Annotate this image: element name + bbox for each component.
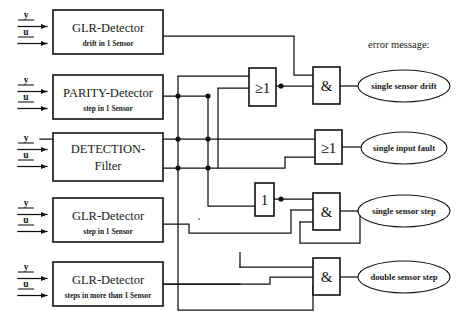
logic-gate-not-1[interactable]: 1 <box>255 183 274 216</box>
block-subtitle: drift in 1 Sensor <box>82 39 134 48</box>
block-title: GLR-Detector <box>72 21 145 35</box>
function-block-glr-multistep[interactable]: GLR-Detectorsteps in more than 1 Sensor <box>53 262 163 306</box>
signal-labels-layer: yuyuyuyuyu <box>23 10 29 289</box>
logic-gate-or-1[interactable]: ≥1 <box>249 68 276 106</box>
output-label: single sensor drift <box>371 81 436 91</box>
gate-label: & <box>321 78 333 94</box>
logic-gate-and-3[interactable]: & <box>313 258 340 295</box>
function-blocks-layer: GLR-Detectordrift in 1 SensorPARITY-Dete… <box>53 10 163 306</box>
gate-label: ≥1 <box>321 140 337 156</box>
block-title: PARITY-Detector <box>63 86 154 100</box>
signal-label-y-glr-step: y <box>24 198 29 208</box>
wire-filter-out-to-or2 <box>163 157 315 171</box>
gate-label: & <box>321 269 333 285</box>
signal-label-u-glr-step: u <box>23 215 29 225</box>
gate-label: 1 <box>261 192 269 208</box>
signal-label-y-glr-drift: y <box>24 10 29 20</box>
output-label: single input fault <box>373 143 435 153</box>
wire-and3-inputs <box>163 252 313 284</box>
function-block-detection-filter[interactable]: DETECTION-Filter <box>53 133 163 181</box>
signal-label-y-parity: y <box>24 75 29 85</box>
signal-label-y-detection-filter: y <box>24 133 29 143</box>
wire-glrdrift-to-and1 <box>163 36 313 75</box>
signal-label-u-glr-multistep: u <box>23 279 29 289</box>
logic-gates-layer: ≥1&≥11&& <box>249 67 342 295</box>
signal-label-u-glr-drift: u <box>23 27 29 37</box>
block-subtitle: steps in more than 1 Sensor <box>65 291 152 300</box>
input-arrows-glr-step <box>18 208 47 232</box>
error-message-outputs-layer: single sensor driftsingle input faultsin… <box>358 70 450 293</box>
block-title: GLR-Detector <box>72 273 145 287</box>
input-arrows-glr-multistep <box>18 272 47 296</box>
diagram-canvas: GLR-Detectordrift in 1 SensorPARITY-Dete… <box>0 0 473 331</box>
output-out-sensor-step[interactable]: single sensor step <box>358 195 450 227</box>
output-out-input-fault[interactable]: single input fault <box>361 132 447 164</box>
output-out-drift[interactable]: single sensor drift <box>358 70 450 102</box>
input-arrows-detection-filter <box>18 143 47 167</box>
block-subtitle: Filter <box>94 159 122 173</box>
output-label: double sensor step <box>370 272 437 282</box>
wire-not1-to-and2 <box>274 196 313 201</box>
signal-label-u-detection-filter: u <box>23 150 29 160</box>
wire-parity-down-bus <box>205 93 255 206</box>
wire-parity-bus <box>163 76 313 310</box>
output-label: single sensor step <box>372 206 436 216</box>
block-title: GLR-Detector <box>72 209 145 223</box>
fault-detection-diagram: GLR-Detectordrift in 1 SensorPARITY-Dete… <box>0 0 473 331</box>
output-out-double-step[interactable]: double sensor step <box>358 261 450 293</box>
function-block-parity[interactable]: PARITY-Detectorstep in 1 Sensor <box>53 75 163 119</box>
error-message-heading: error message: <box>368 39 430 50</box>
wire-or1-to-and1 <box>276 83 313 88</box>
block-subtitle: step in 1 Sensor <box>83 104 133 113</box>
signal-label-y-glr-multistep: y <box>24 262 29 272</box>
logic-gate-or-2[interactable]: ≥1 <box>315 130 342 164</box>
gate-label: & <box>321 204 333 220</box>
input-arrows-parity <box>18 85 47 109</box>
logic-gate-and-2[interactable]: & <box>313 193 340 230</box>
gate-label: ≥1 <box>255 80 271 96</box>
block-subtitle: step in 1 Sensor <box>83 227 133 236</box>
logic-gate-and-1[interactable]: & <box>313 67 340 104</box>
function-block-glr-drift[interactable]: GLR-Detectordrift in 1 Sensor <box>53 10 163 54</box>
wire-filterbus-to-or1 <box>218 88 249 168</box>
signal-label-u-parity: u <box>23 92 29 102</box>
block-title: DETECTION- <box>71 142 145 156</box>
function-block-glr-step[interactable]: GLR-Detectorstep in 1 Sensor <box>53 198 163 242</box>
block-outline <box>53 133 163 181</box>
input-arrows-glr-drift <box>18 20 47 44</box>
